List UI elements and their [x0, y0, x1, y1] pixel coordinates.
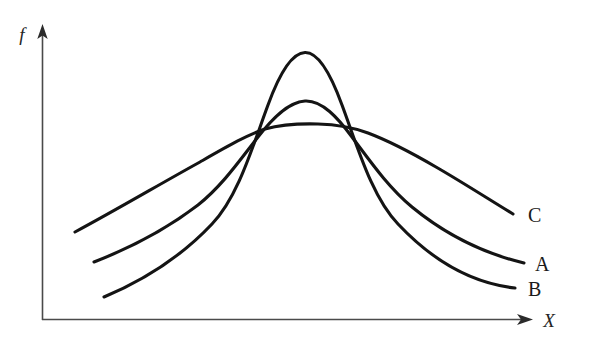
- x-axis-label: X: [542, 310, 556, 331]
- figure-container: f X C A B: [0, 0, 610, 354]
- distribution-curves-chart: f X C A B: [0, 0, 610, 354]
- curve-label-c: C: [528, 204, 541, 226]
- curve-c: [75, 124, 513, 232]
- curve-label-a: A: [535, 253, 550, 275]
- y-axis-label: f: [19, 24, 27, 45]
- curve-b: [104, 52, 515, 297]
- curve-label-b: B: [528, 278, 541, 300]
